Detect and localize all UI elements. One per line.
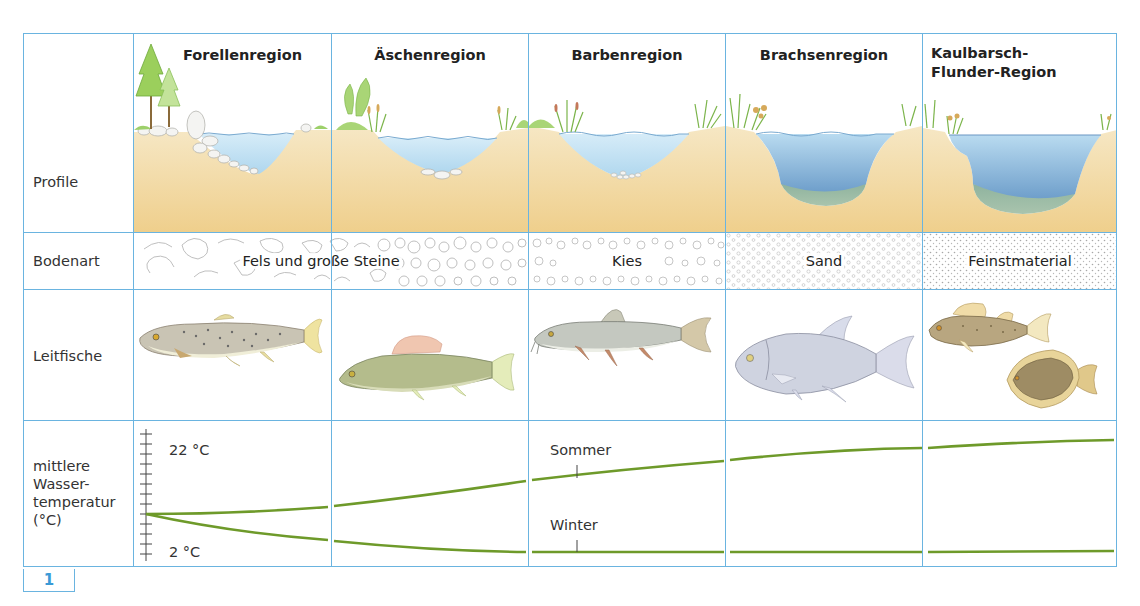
- figure-number: 1: [23, 569, 75, 592]
- grid-line: [528, 33, 529, 567]
- grid-line: [331, 33, 332, 567]
- grid-line: [23, 232, 1117, 233]
- table-grid: [23, 33, 1117, 567]
- grid-line: [23, 566, 1117, 567]
- grid-line: [23, 33, 1117, 34]
- grid-line: [23, 33, 24, 567]
- grid-line: [23, 289, 1117, 290]
- grid-line: [1116, 33, 1117, 567]
- grid-line: [23, 420, 1117, 421]
- grid-line: [133, 33, 134, 567]
- grid-line: [725, 33, 726, 567]
- grid-line: [922, 33, 923, 567]
